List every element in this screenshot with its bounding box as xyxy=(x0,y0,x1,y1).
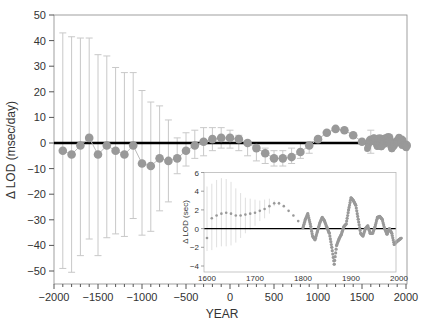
data-point xyxy=(94,150,103,159)
data-point xyxy=(296,148,305,157)
inset-x-tick-label: 1900 xyxy=(342,274,360,283)
inset-data-point xyxy=(345,220,348,223)
inset-data-point xyxy=(297,220,300,223)
inset-background xyxy=(204,173,396,273)
inset-y-tick-label: 2 xyxy=(195,206,200,215)
data-point xyxy=(235,135,244,144)
inset-y-axis-label: Δ LOD (sec) xyxy=(181,200,190,244)
data-point xyxy=(279,154,288,163)
inset-x-tick-label: 1600 xyxy=(198,274,216,283)
inset-data-point xyxy=(346,214,349,217)
inset-data-point xyxy=(211,217,214,220)
inset-data-point xyxy=(287,210,290,213)
inset-data-point xyxy=(263,208,266,211)
inset-data-point xyxy=(358,223,361,226)
data-point xyxy=(129,141,138,150)
data-point xyxy=(208,135,217,144)
data-point xyxy=(67,150,76,159)
x-axis-label: YEAR xyxy=(206,307,239,321)
inset-y-axis: 6420−2−4 xyxy=(190,169,204,272)
data-point xyxy=(323,128,332,137)
inset-data-point xyxy=(356,215,359,218)
data-point xyxy=(182,146,191,155)
inset-data-point xyxy=(244,213,247,216)
inset-plot: 6420−2−4 16001700180019002000 Δ LOD (sec… xyxy=(181,169,408,284)
inset-data-point xyxy=(330,246,333,249)
data-point xyxy=(147,162,156,171)
inset-data-point xyxy=(331,252,334,255)
inset-data-point xyxy=(329,240,332,243)
y-tick-label: −50 xyxy=(27,265,46,277)
inset-y-tick-label: −2 xyxy=(190,243,200,252)
data-point xyxy=(358,137,367,146)
inset-data-point xyxy=(359,229,362,232)
data-point xyxy=(314,135,323,144)
inset-data-point xyxy=(334,255,337,258)
inset-data-point xyxy=(235,214,238,217)
inset-data-point xyxy=(278,202,281,205)
x-tick-label: 500 xyxy=(265,291,283,303)
y-tick-label: −10 xyxy=(27,163,46,175)
data-point xyxy=(217,134,226,143)
data-point xyxy=(270,154,279,163)
inset-data-point xyxy=(283,205,286,208)
inset-y-tick-label: 6 xyxy=(195,169,200,178)
inset-data-point xyxy=(357,220,360,223)
inset-y-tick-label: 4 xyxy=(195,187,200,196)
data-point xyxy=(120,150,129,159)
y-tick-label: −20 xyxy=(27,188,46,200)
inset-data-point xyxy=(329,237,332,240)
main-data-points xyxy=(59,125,412,171)
y-tick-label: 30 xyxy=(34,60,46,72)
y-axis: 50403020100−10−20−30−40−50 xyxy=(27,9,54,277)
data-point xyxy=(173,154,182,163)
y-tick-label: 20 xyxy=(34,86,46,98)
x-tick-label: 1500 xyxy=(350,291,374,303)
data-point xyxy=(138,159,147,168)
inset-y-tick-label: 0 xyxy=(195,225,200,234)
data-point xyxy=(199,137,208,146)
inset-data-point xyxy=(355,209,358,212)
inset-data-point xyxy=(335,248,338,251)
x-tick-label: −1500 xyxy=(83,291,114,303)
inset-data-point xyxy=(328,232,331,235)
data-point xyxy=(76,141,85,150)
data-point xyxy=(164,157,173,166)
y-tick-label: 40 xyxy=(34,35,46,47)
inset-data-point xyxy=(328,234,331,237)
x-tick-label: −500 xyxy=(174,291,199,303)
x-tick-label: −1000 xyxy=(127,291,158,303)
data-point xyxy=(85,134,94,143)
inset-x-tick-label: 2000 xyxy=(390,274,408,283)
x-tick-label: 1000 xyxy=(306,291,330,303)
data-point xyxy=(226,134,235,143)
inset-x-axis: 16001700180019002000 xyxy=(198,274,408,283)
data-point xyxy=(340,126,349,135)
inset-data-point xyxy=(333,263,336,266)
inset-data-point xyxy=(333,259,336,262)
inset-data-point xyxy=(225,211,228,214)
data-point xyxy=(349,131,358,140)
inset-data-point xyxy=(354,204,357,207)
inset-y-tick-label: −4 xyxy=(190,262,200,271)
inset-x-tick-label: 1700 xyxy=(246,274,264,283)
inset-data-point xyxy=(254,211,257,214)
y-tick-label: −30 xyxy=(27,214,46,226)
data-point xyxy=(191,141,200,150)
inset-data-point xyxy=(330,243,333,246)
x-tick-label: −2000 xyxy=(39,291,70,303)
x-tick-label: 2000 xyxy=(394,291,418,303)
inset-data-point xyxy=(230,212,233,215)
chart-figure: 50403020100−10−20−30−40−50 −2000−1500−10… xyxy=(0,0,429,327)
data-point xyxy=(103,141,112,150)
data-point xyxy=(305,141,314,150)
inset-data-point xyxy=(356,212,359,215)
inset-data-point xyxy=(259,210,262,213)
data-point xyxy=(155,154,164,163)
inset-data-point xyxy=(399,237,402,240)
inset-data-point xyxy=(357,218,360,221)
inset-data-point xyxy=(273,202,276,205)
inset-data-point xyxy=(292,214,295,217)
data-point xyxy=(252,144,261,153)
inset-data-point xyxy=(239,214,242,217)
